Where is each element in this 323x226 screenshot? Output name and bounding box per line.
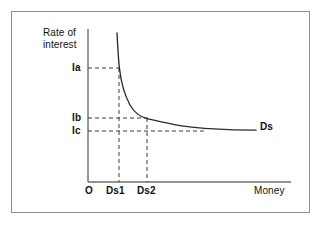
x-tick-label-ds1: Ds1 — [106, 185, 125, 197]
x-tick-label-ds2: Ds2 — [137, 185, 156, 197]
origin-label: O — [85, 185, 93, 197]
y-axis-title: Rate of interest — [43, 27, 77, 51]
y-tick-label-ic: Ic — [72, 125, 81, 137]
figure-root: Rate of interest Ia Ib Ic O Ds1 Ds2 Mone… — [0, 0, 323, 226]
x-axis-title: Money — [254, 185, 285, 197]
demand-curve-ds — [117, 33, 256, 130]
y-axis-title-line-2: interest — [43, 39, 77, 51]
curve-label-ds: Ds — [260, 121, 273, 133]
y-tick-label-ib: Ib — [72, 112, 81, 124]
y-axis-title-line-1: Rate of — [43, 27, 77, 39]
y-tick-label-ia: Ia — [72, 62, 81, 74]
